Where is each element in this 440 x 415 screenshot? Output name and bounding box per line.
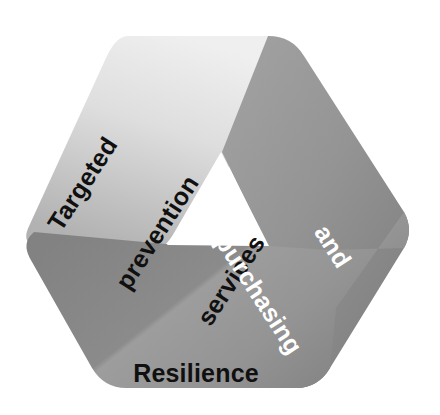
triad-ribbon-graphic <box>0 0 440 415</box>
triad-diagram: Targeted prevention services Assessment … <box>0 0 440 415</box>
